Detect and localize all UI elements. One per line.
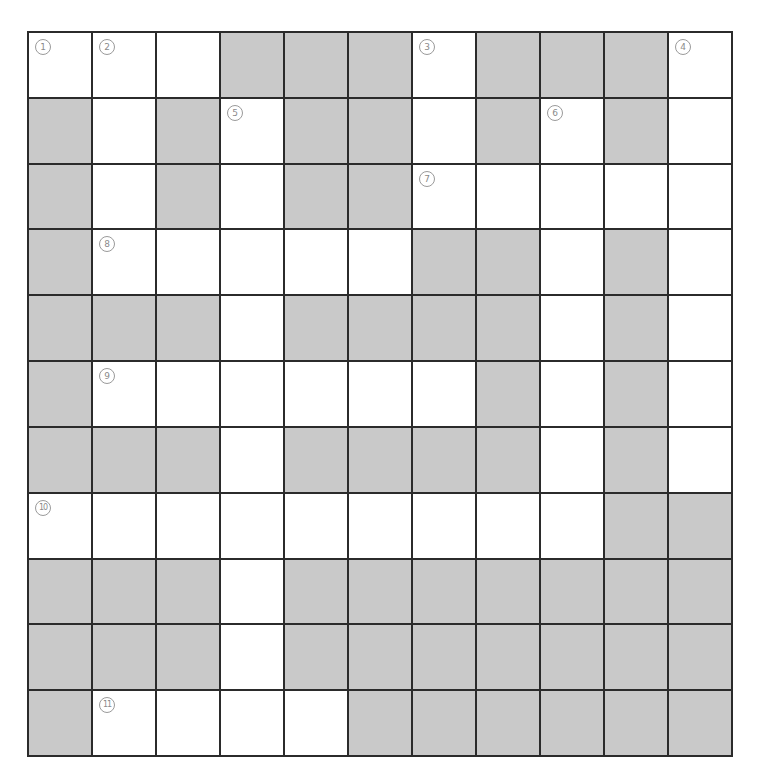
crossword-cell-blocked (605, 691, 667, 755)
crossword-cell-blocked (605, 230, 667, 294)
crossword-cell-blocked (349, 33, 411, 97)
crossword-cell-blocked (413, 428, 475, 492)
crossword-cell-blocked (29, 230, 91, 294)
crossword-cell-open[interactable]: 11 (93, 691, 155, 755)
crossword-cell-open[interactable] (221, 691, 283, 755)
crossword-grid: 1234567891011 (27, 31, 733, 757)
crossword-cell-blocked (285, 165, 347, 229)
crossword-cell-open[interactable] (669, 362, 731, 426)
clue-number: 11 (99, 697, 115, 713)
crossword-cell-open[interactable] (157, 494, 219, 558)
crossword-cell-open[interactable] (285, 230, 347, 294)
crossword-cell-blocked (349, 296, 411, 360)
crossword-cell-open[interactable] (541, 428, 603, 492)
crossword-cell-blocked (349, 428, 411, 492)
crossword-cell-blocked (285, 33, 347, 97)
clue-number: 2 (99, 39, 115, 55)
crossword-cell-open[interactable] (157, 230, 219, 294)
crossword-cell-open[interactable]: 3 (413, 33, 475, 97)
crossword-cell-open[interactable] (93, 99, 155, 163)
crossword-cell-open[interactable] (221, 296, 283, 360)
crossword-cell-open[interactable] (157, 362, 219, 426)
crossword-cell-open[interactable]: 1 (29, 33, 91, 97)
crossword-cell-open[interactable]: 2 (93, 33, 155, 97)
crossword-cell-open[interactable] (541, 362, 603, 426)
crossword-cell-blocked (477, 691, 539, 755)
crossword-cell-blocked (477, 99, 539, 163)
crossword-cell-open[interactable] (669, 99, 731, 163)
crossword-cell-open[interactable] (349, 362, 411, 426)
crossword-cell-blocked (157, 296, 219, 360)
crossword-cell-open[interactable] (221, 165, 283, 229)
crossword-cell-blocked (477, 362, 539, 426)
crossword-cell-open[interactable] (285, 494, 347, 558)
crossword-cell-blocked (413, 691, 475, 755)
crossword-cell-blocked (157, 99, 219, 163)
crossword-cell-blocked (29, 362, 91, 426)
clue-number: 3 (419, 39, 435, 55)
crossword-cell-blocked (477, 33, 539, 97)
crossword-cell-blocked (669, 494, 731, 558)
crossword-cell-blocked (669, 560, 731, 624)
crossword-cell-open[interactable]: 4 (669, 33, 731, 97)
crossword-cell-open[interactable]: 5 (221, 99, 283, 163)
crossword-cell-open[interactable]: 7 (413, 165, 475, 229)
crossword-cell-open[interactable] (157, 33, 219, 97)
crossword-cell-open[interactable] (413, 494, 475, 558)
crossword-cell-open[interactable] (669, 230, 731, 294)
crossword-cell-open[interactable] (221, 230, 283, 294)
crossword-cell-open[interactable] (221, 560, 283, 624)
crossword-cell-blocked (93, 428, 155, 492)
crossword-cell-blocked (285, 428, 347, 492)
crossword-cell-open[interactable] (349, 230, 411, 294)
crossword-cell-open[interactable]: 10 (29, 494, 91, 558)
crossword-cell-open[interactable] (669, 296, 731, 360)
crossword-cell-open[interactable] (93, 165, 155, 229)
crossword-cell-blocked (605, 560, 667, 624)
crossword-cell-blocked (29, 296, 91, 360)
clue-number: 6 (547, 105, 563, 121)
crossword-cell-open[interactable] (285, 362, 347, 426)
crossword-cell-open[interactable] (349, 494, 411, 558)
crossword-cell-open[interactable]: 6 (541, 99, 603, 163)
clue-number: 1 (35, 39, 51, 55)
crossword-cell-open[interactable] (541, 494, 603, 558)
crossword-cell-blocked (221, 33, 283, 97)
crossword-cell-open[interactable] (477, 494, 539, 558)
clue-number: 7 (419, 171, 435, 187)
crossword-cell-blocked (605, 99, 667, 163)
crossword-cell-blocked (349, 99, 411, 163)
crossword-cell-open[interactable] (541, 230, 603, 294)
crossword-cell-open[interactable] (477, 165, 539, 229)
crossword-cell-blocked (477, 230, 539, 294)
crossword-cell-open[interactable] (221, 362, 283, 426)
crossword-cell-open[interactable] (157, 691, 219, 755)
crossword-cell-open[interactable] (93, 494, 155, 558)
clue-number: 8 (99, 236, 115, 252)
crossword-cell-open[interactable] (541, 165, 603, 229)
crossword-cell-blocked (541, 560, 603, 624)
crossword-cell-open[interactable] (541, 296, 603, 360)
crossword-cell-blocked (541, 33, 603, 97)
crossword-cell-open[interactable]: 9 (93, 362, 155, 426)
crossword-cell-open[interactable]: 8 (93, 230, 155, 294)
crossword-cell-open[interactable] (605, 165, 667, 229)
crossword-cell-blocked (605, 494, 667, 558)
crossword-cell-blocked (349, 691, 411, 755)
crossword-cell-blocked (29, 625, 91, 689)
crossword-cell-open[interactable] (669, 165, 731, 229)
crossword-cell-open[interactable] (285, 691, 347, 755)
crossword-cell-blocked (413, 560, 475, 624)
crossword-cell-blocked (349, 560, 411, 624)
crossword-cell-blocked (93, 560, 155, 624)
crossword-cell-open[interactable] (413, 99, 475, 163)
crossword-cell-open[interactable] (669, 428, 731, 492)
clue-number: 5 (227, 105, 243, 121)
crossword-cell-open[interactable] (221, 428, 283, 492)
crossword-cell-open[interactable] (221, 625, 283, 689)
crossword-cell-blocked (477, 428, 539, 492)
crossword-cell-open[interactable] (221, 494, 283, 558)
crossword-cell-open[interactable] (413, 362, 475, 426)
crossword-cell-blocked (605, 33, 667, 97)
clue-number: 4 (675, 39, 691, 55)
